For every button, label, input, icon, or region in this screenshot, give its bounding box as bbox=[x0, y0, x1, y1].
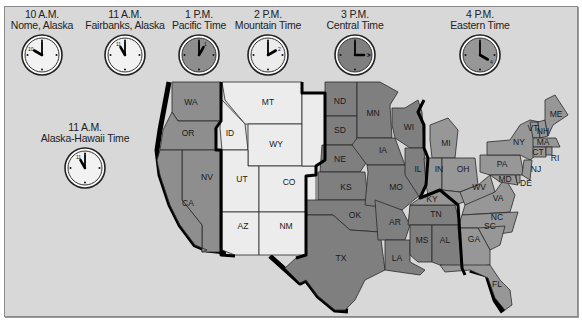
state-label-id: ID bbox=[226, 128, 235, 138]
state-label-ne: NE bbox=[334, 154, 346, 164]
state-al bbox=[432, 225, 462, 268]
state-label-nm: NM bbox=[279, 221, 292, 231]
state-label-ok: OK bbox=[349, 210, 362, 220]
state-label-ri: RI bbox=[551, 153, 560, 163]
state-label-nj: NJ bbox=[531, 164, 541, 174]
state-label-az: AZ bbox=[238, 221, 249, 231]
state-label-de: DE bbox=[520, 178, 532, 188]
state-label-ut: UT bbox=[236, 174, 247, 184]
state-label-ms: MS bbox=[416, 235, 429, 245]
state-label-wi: WI bbox=[404, 122, 414, 132]
state-label-me: ME bbox=[550, 109, 563, 119]
state-label-va: VA bbox=[493, 193, 504, 203]
state-label-tx: TX bbox=[336, 253, 347, 263]
state-label-in: IN bbox=[435, 164, 444, 174]
state-label-ga: GA bbox=[468, 234, 481, 244]
state-label-ct: CT bbox=[532, 147, 543, 157]
state-label-mn: MN bbox=[366, 108, 379, 118]
state-label-pa: PA bbox=[497, 159, 508, 169]
state-label-mi: MI bbox=[441, 138, 450, 148]
state-label-ma: MA bbox=[537, 137, 550, 147]
state-label-co: CO bbox=[283, 177, 296, 187]
state-label-al: AL bbox=[440, 235, 451, 245]
state-label-wa: WA bbox=[184, 97, 198, 107]
state-label-ia: IA bbox=[379, 145, 387, 155]
state-label-ks: KS bbox=[340, 182, 352, 192]
state-label-il: IL bbox=[414, 164, 421, 174]
state-label-mo: MO bbox=[389, 182, 403, 192]
state-az bbox=[222, 212, 259, 255]
state-label-nh: NH bbox=[537, 126, 549, 136]
state-label-ca: CA bbox=[182, 198, 194, 208]
state-label-ky: KY bbox=[426, 194, 438, 204]
us-time-zone-map: WA OR NV CA MT ID WY UT CO AZ NM ND SD N… bbox=[0, 0, 582, 320]
state-label-tn: TN bbox=[430, 209, 441, 219]
state-label-ar: AR bbox=[389, 217, 401, 227]
state-nm bbox=[259, 212, 306, 255]
state-label-la: LA bbox=[392, 253, 403, 263]
state-label-nv: NV bbox=[201, 172, 213, 182]
state-label-or: OR bbox=[182, 128, 195, 138]
state-label-wy: WY bbox=[269, 139, 283, 149]
state-label-mt: MT bbox=[262, 97, 274, 107]
state-label-sd: SD bbox=[334, 125, 346, 135]
state-label-nd: ND bbox=[334, 96, 346, 106]
state-label-sc: SC bbox=[484, 221, 496, 231]
state-label-fl: FL bbox=[492, 279, 502, 289]
state-label-md: MD bbox=[498, 174, 511, 184]
state-label-oh: OH bbox=[457, 164, 470, 174]
state-label-ny: NY bbox=[513, 137, 525, 147]
state-label-wv: WV bbox=[472, 182, 486, 192]
